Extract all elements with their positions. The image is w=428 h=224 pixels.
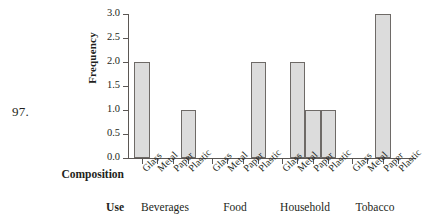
- y-tick: 1.5: [123, 86, 128, 87]
- use-axis-title: Use: [32, 201, 124, 213]
- use-tick-label: Beverages: [125, 201, 205, 213]
- bar: [251, 62, 267, 158]
- y-axis-line: [128, 14, 129, 159]
- y-tick-label: 0.5: [107, 127, 120, 138]
- y-tick-label: 3.0: [107, 7, 120, 18]
- composition-axis-title: Composition: [32, 168, 124, 180]
- use-tick-label: Household: [265, 201, 345, 213]
- bar: [134, 62, 150, 158]
- y-tick: 2.0: [123, 62, 128, 63]
- bar: [290, 62, 306, 158]
- y-tick-label: 1.0: [107, 103, 120, 114]
- y-tick-label: 2.5: [107, 31, 120, 42]
- y-tick: 1.0: [123, 110, 128, 111]
- bar: [375, 14, 391, 158]
- y-tick: 2.5: [123, 38, 128, 39]
- y-tick: 0.0: [123, 158, 128, 159]
- plot-area: 0.00.51.01.52.02.53.0: [128, 14, 416, 158]
- y-tick-label: 0.0: [107, 151, 120, 162]
- y-tick-label: 2.0: [107, 55, 120, 66]
- y-tick-label: 1.5: [107, 79, 120, 90]
- y-tick: 0.5: [123, 134, 128, 135]
- bar-chart-figure: Frequency 0.00.51.01.52.02.53.0 GlassMet…: [0, 0, 428, 224]
- y-tick: 3.0: [123, 14, 128, 15]
- use-tick-label: Tobacco: [335, 201, 415, 213]
- y-axis-title: Frequency: [86, 10, 98, 106]
- use-tick-label: Food: [195, 201, 275, 213]
